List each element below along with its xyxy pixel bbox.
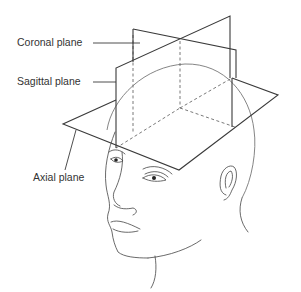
sagittal-plane-label: Sagittal plane (17, 76, 81, 87)
lower-lip (113, 229, 138, 232)
upper-lip (111, 221, 140, 229)
axial-hidden-back (180, 78, 232, 108)
left-eyebrow (109, 150, 125, 154)
axial-leader-line (65, 130, 76, 170)
neck-back (240, 198, 248, 232)
ear-inner (225, 171, 232, 188)
axial-plane-label: Axial plane (33, 172, 84, 183)
right-pupil (152, 176, 156, 180)
left-pupil (114, 158, 118, 162)
coronal-plane-label: Coronal plane (17, 37, 82, 48)
ear (220, 166, 236, 200)
axial-coronal-intersection (180, 108, 235, 127)
face-drawing (105, 132, 248, 288)
right-eyelid (145, 172, 168, 177)
jawline (148, 240, 201, 258)
axial-plane (63, 78, 278, 170)
neck-front (151, 256, 156, 288)
nose (114, 205, 136, 215)
hidden-edges (116, 35, 235, 148)
axial-sagittal-intersection (116, 108, 180, 148)
anatomical-planes-diagram: Coronal plane Sagittal plane Axial plane (0, 0, 301, 292)
face-contour (105, 132, 148, 258)
